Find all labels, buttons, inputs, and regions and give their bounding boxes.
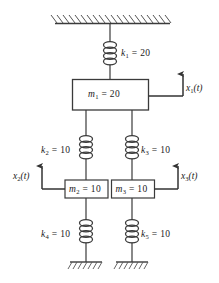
mass-label-m2: m2 = 10 xyxy=(69,185,101,195)
spring-label-k5: k5 = 10 xyxy=(141,230,170,240)
mass-label-m3-equals: = xyxy=(129,184,135,194)
spring-k2 xyxy=(80,110,93,180)
spring-label-k2-value: 10 xyxy=(60,145,70,155)
spring-label-k1: k1 = 20 xyxy=(121,49,150,59)
schematic-drawing xyxy=(0,0,219,283)
spring-k1 xyxy=(104,24,117,79)
mass-label-m1-subscript: 1 xyxy=(95,93,99,100)
spring-label-k5-equals: = xyxy=(152,229,158,239)
spring-label-k4-value: 10 xyxy=(60,229,70,239)
spring-label-k4: k4 = 10 xyxy=(41,230,70,240)
spring-label-k1-subscript: 1 xyxy=(126,52,130,59)
coordinate-label-x1-arg: (t) xyxy=(194,83,203,93)
fixed-ground-support-left xyxy=(68,262,102,269)
fixed-ceiling-support xyxy=(51,15,171,24)
coordinate-label-x3-arg: (t) xyxy=(189,171,198,181)
mass-label-m2-equals: = xyxy=(82,184,88,194)
spring-label-k3-subscript: 3 xyxy=(146,149,150,156)
coordinate-label-x2: x2(t) xyxy=(13,172,29,182)
spring-label-k3-equals: = xyxy=(152,145,158,155)
mass-label-m1-value: 20 xyxy=(110,89,120,99)
spring-label-k2: k2 = 10 xyxy=(41,146,70,156)
spring-label-k3: k3 = 10 xyxy=(141,146,170,156)
mass-label-m3-value: 10 xyxy=(137,184,147,194)
coordinate-label-x2-arg: (t) xyxy=(21,171,30,181)
coordinate-label-x2-subscript: 2 xyxy=(17,175,20,182)
spring-k4 xyxy=(80,198,93,262)
spring-label-k2-equals: = xyxy=(52,145,58,155)
spring-k5 xyxy=(126,198,139,262)
spring-mass-system-figure: k1 = 20 m1 = 20 x1(t) k2 = 10 k3 = 10 x2… xyxy=(0,0,219,283)
spring-k3 xyxy=(126,110,139,180)
mass-label-m2-subscript: 2 xyxy=(76,188,80,195)
spring-label-k5-subscript: 5 xyxy=(146,233,150,240)
coordinate-arrow-x1 xyxy=(149,74,184,96)
spring-label-k2-subscript: 2 xyxy=(46,149,50,156)
coordinate-label-x3-subscript: 3 xyxy=(185,175,188,182)
spring-label-k1-equals: = xyxy=(132,48,138,58)
spring-label-k1-value: 20 xyxy=(140,48,150,58)
coordinate-label-x1-subscript: 1 xyxy=(190,87,193,94)
coordinate-label-x1: x1(t) xyxy=(186,84,202,94)
mass-label-m1-equals: = xyxy=(101,89,107,99)
coordinate-label-x3: x3(t) xyxy=(181,172,197,182)
mass-label-m3: m3 = 10 xyxy=(116,185,148,195)
spring-label-k4-subscript: 4 xyxy=(46,233,50,240)
spring-label-k4-equals: = xyxy=(52,229,58,239)
mass-label-m2-value: 10 xyxy=(91,184,101,194)
coordinate-arrow-x3 xyxy=(155,166,179,189)
spring-label-k3-value: 10 xyxy=(160,145,170,155)
fixed-ground-support-right xyxy=(114,262,148,269)
spring-label-k5-value: 10 xyxy=(160,229,170,239)
coordinate-arrow-x2 xyxy=(42,166,65,189)
mass-label-m1: m1 = 20 xyxy=(88,90,120,100)
mass-label-m3-subscript: 3 xyxy=(123,188,127,195)
